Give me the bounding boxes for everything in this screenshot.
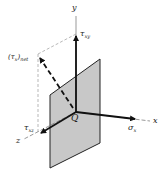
x-axis-label: x: [153, 117, 158, 125]
projection-line-top: [38, 34, 76, 54]
origin-label: Q: [71, 114, 78, 123]
z-axis-label: z: [16, 137, 20, 145]
stress-diagram: [0, 0, 167, 178]
y-axis-label: y: [72, 4, 77, 12]
tau-net-label: (τx)net: [8, 54, 28, 62]
sigma-x-label: σx: [128, 124, 136, 133]
tau-xz-label: τxz: [24, 124, 34, 133]
tau-xy-label: τxy: [80, 30, 90, 39]
